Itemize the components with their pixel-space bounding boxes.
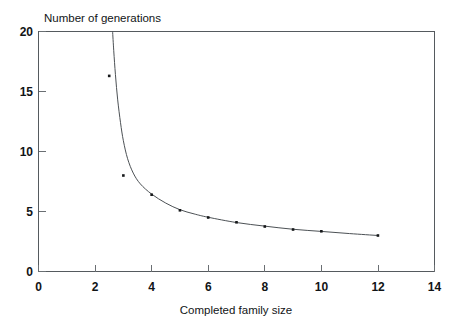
data-point [207, 216, 210, 219]
x-tick-label-12: 12 [371, 280, 385, 294]
data-point [122, 174, 125, 177]
data-point [377, 234, 380, 237]
x-tick-label-10: 10 [315, 280, 329, 294]
data-point [108, 75, 111, 78]
y-tick-label-15: 15 [20, 85, 34, 99]
x-tick-label-14: 14 [428, 280, 442, 294]
y-tick-label-0: 0 [26, 265, 33, 279]
data-point [235, 221, 238, 224]
x-tick-label-2: 2 [92, 280, 99, 294]
data-point [320, 230, 323, 233]
generations-vs-family-size-chart: 20 15 10 5 0 0 2 4 6 8 10 12 14 [0, 0, 456, 331]
data-point [263, 225, 266, 228]
y-tick-label-5: 5 [26, 205, 33, 219]
data-point [292, 228, 295, 231]
y-axis-title: Number of generations [44, 12, 161, 24]
x-axis-title: Completed family size [180, 304, 292, 316]
data-point [150, 193, 153, 196]
x-tick-label-4: 4 [148, 280, 155, 294]
x-tick-label-0: 0 [35, 280, 42, 294]
y-tick-label-20: 20 [20, 25, 34, 39]
x-tick-label-8: 8 [262, 280, 269, 294]
chart-background [0, 0, 456, 331]
chart-screenshot: 20 15 10 5 0 0 2 4 6 8 10 12 14 [0, 0, 456, 331]
x-tick-label-6: 6 [205, 280, 212, 294]
data-point [179, 209, 182, 212]
y-tick-label-10: 10 [20, 145, 34, 159]
